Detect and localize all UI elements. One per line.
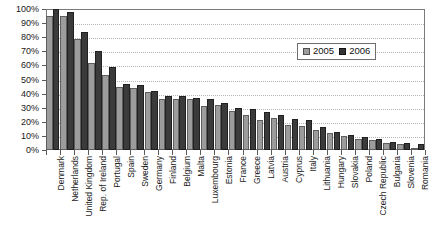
x-axis-tick-mark [228, 150, 229, 155]
bar-group [369, 9, 383, 150]
x-axis-label: Greece [253, 156, 262, 184]
bar-group [243, 9, 257, 150]
x-axis-label: Netherlands [71, 156, 80, 202]
legend-item-2006: 2006 [339, 46, 370, 56]
x-axis-tick-mark [425, 150, 426, 155]
x-axis-tick-mark [144, 150, 145, 155]
bar [165, 96, 171, 150]
x-axis-label: Austria [281, 156, 290, 182]
bar [327, 133, 333, 150]
bar-group [228, 9, 242, 150]
bar [313, 130, 319, 150]
bar-group [355, 9, 369, 150]
x-axis-label: Portugal [113, 156, 122, 188]
bar-group [214, 9, 228, 150]
bar-group [313, 9, 327, 150]
bar [221, 103, 227, 150]
y-axis-tick-label: 80% [21, 33, 39, 42]
bar-group [341, 9, 355, 150]
x-axis-label: Lithuania [323, 156, 332, 191]
bar-groups [46, 9, 425, 150]
legend-swatch-icon [303, 48, 310, 55]
bar [292, 119, 298, 150]
x-axis-label: Estonia [225, 156, 234, 184]
bar [362, 137, 368, 150]
y-axis-tick-label: 40% [21, 89, 39, 98]
bar [179, 96, 185, 150]
x-axis-tick-mark [102, 150, 103, 155]
bar [334, 132, 340, 150]
bar [348, 135, 354, 151]
x-axis-label: Belgium [183, 156, 192, 187]
x-axis-label: Latvia [267, 156, 276, 179]
x-axis-tick-mark [158, 150, 159, 155]
bar [187, 99, 193, 150]
x-axis-label: United Kingdom [85, 156, 94, 216]
x-axis-tick-mark [214, 150, 215, 155]
bar-group [327, 9, 341, 150]
x-axis-label: Germany [155, 156, 164, 191]
bar [95, 51, 101, 150]
y-axis-tick-label: 60% [21, 61, 39, 70]
x-axis-tick-mark [285, 150, 286, 155]
bar [88, 63, 94, 150]
bar [320, 127, 326, 150]
x-axis-tick-mark [116, 150, 117, 155]
x-axis-label: Bulgaria [393, 156, 402, 187]
x-axis-label: Hungary [337, 156, 346, 188]
bar [46, 16, 52, 150]
bar [250, 109, 256, 150]
bar-group [285, 9, 299, 150]
y-axis-tick-label: 0% [26, 146, 39, 155]
bar [264, 112, 270, 150]
x-axis-labels: DenmarkNetherlandsUnited KingdomRep. of … [46, 156, 425, 243]
bar-group [116, 9, 130, 150]
bar-group [200, 9, 214, 150]
bar [383, 143, 389, 150]
x-axis-tick-mark [411, 150, 412, 155]
bar [299, 126, 305, 150]
bar [109, 67, 115, 150]
bar-group [271, 9, 285, 150]
x-axis-tick-mark [355, 150, 356, 155]
bar-group [60, 9, 74, 150]
bar-group [257, 9, 271, 150]
x-axis-label: Luxembourg [211, 156, 220, 203]
x-axis-tick-mark [172, 150, 173, 155]
x-axis-tick-mark [186, 150, 187, 155]
bar-group [172, 9, 186, 150]
x-axis-tick-mark [341, 150, 342, 155]
x-axis-tick-mark [60, 150, 61, 155]
bar [207, 99, 213, 150]
y-axis-tick-label: 10% [21, 131, 39, 140]
x-axis-tick-mark [397, 150, 398, 155]
bar [193, 98, 199, 150]
bar-group [397, 9, 411, 150]
bar-group [46, 9, 60, 150]
bar-group [411, 9, 425, 150]
x-axis-label: Poland [365, 156, 374, 182]
bar [60, 16, 66, 150]
x-axis-tick-mark [88, 150, 89, 155]
x-axis-label: France [239, 156, 248, 182]
x-axis-tick-mark [46, 150, 47, 155]
x-axis-label: Slovakia [351, 156, 360, 188]
bar [173, 99, 179, 150]
x-axis-label: Denmark [57, 156, 66, 190]
bar [404, 143, 410, 150]
y-axis-tick-label: 70% [21, 47, 39, 56]
bar [102, 75, 108, 150]
bar [215, 105, 221, 150]
bar-group [383, 9, 397, 150]
legend-item-2005: 2005 [303, 46, 334, 56]
bar [243, 115, 249, 150]
y-axis-tick-label: 100% [16, 5, 39, 14]
legend-label: 2006 [349, 46, 370, 56]
x-axis-tick-mark [299, 150, 300, 155]
x-axis-label: Romania [421, 156, 430, 190]
bar [341, 136, 347, 150]
x-axis-tick-mark [369, 150, 370, 155]
bar [74, 39, 80, 150]
x-axis-tick-mark [257, 150, 258, 155]
bar [201, 106, 207, 150]
